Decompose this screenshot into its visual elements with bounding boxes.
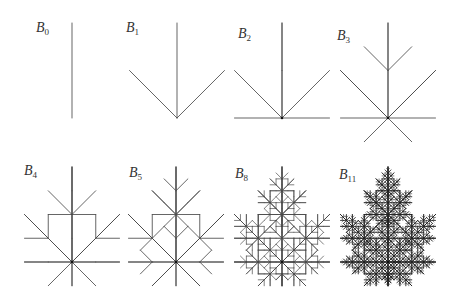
root-dot [281, 117, 284, 120]
root-dot [281, 261, 284, 264]
label-symbol: B [339, 167, 348, 182]
label-symbol: B [36, 20, 45, 35]
panel-label-b11: B11 [339, 168, 356, 184]
label-symbol: B [24, 163, 33, 178]
fractal-panel-b5 [129, 167, 224, 286]
fractal-panel-b8 [235, 167, 330, 286]
root-dot [175, 261, 178, 264]
fractal-figure [0, 0, 457, 305]
label-symbol: B [337, 28, 346, 43]
label-subscript: 0 [45, 27, 50, 37]
label-subscript: 11 [348, 174, 357, 184]
label-subscript: 4 [33, 170, 38, 180]
fractal-lines [25, 167, 120, 286]
panel-label-b2: B2 [238, 27, 251, 43]
panel-label-b8: B8 [235, 167, 248, 183]
label-symbol: B [238, 26, 247, 41]
panel-label-b1: B1 [126, 21, 139, 37]
fractal-panel-b11 [341, 167, 436, 286]
panel-label-b0: B0 [36, 21, 49, 37]
root-dot [71, 261, 74, 264]
label-symbol: B [129, 165, 138, 180]
fractal-lines [130, 23, 225, 118]
label-subscript: 8 [244, 173, 249, 183]
fractal-panel-b1 [130, 23, 225, 118]
panel-label-b5: B5 [129, 166, 142, 182]
panel-label-b4: B4 [24, 164, 37, 180]
label-subscript: 1 [135, 27, 140, 37]
fractal-panel-b3 [341, 23, 436, 142]
panel-label-b3: B3 [337, 29, 350, 45]
fractal-lines [129, 167, 224, 286]
label-symbol: B [235, 166, 244, 181]
label-subscript: 2 [247, 33, 252, 43]
label-subscript: 5 [138, 172, 143, 182]
label-symbol: B [126, 20, 135, 35]
fractal-lines [341, 23, 436, 142]
label-subscript: 3 [346, 35, 351, 45]
root-dot [387, 117, 390, 120]
fractal-panel-b4 [25, 167, 120, 286]
fractal-lines [341, 167, 436, 286]
fractal-lines [235, 167, 330, 286]
root-dot [387, 261, 390, 264]
